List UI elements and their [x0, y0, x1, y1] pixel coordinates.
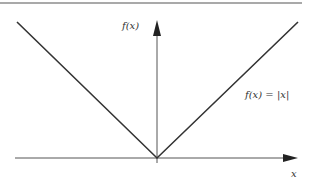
x-axis-label: x — [291, 168, 297, 179]
y-axis-arrow-icon — [153, 20, 161, 36]
y-axis-label: f(x) — [121, 20, 139, 31]
curve-label: f(x) = |x| — [244, 89, 289, 101]
x-axis-arrow-icon — [283, 154, 298, 162]
abs-value-plot: f(x) x f(x) = |x| — [0, 0, 314, 185]
